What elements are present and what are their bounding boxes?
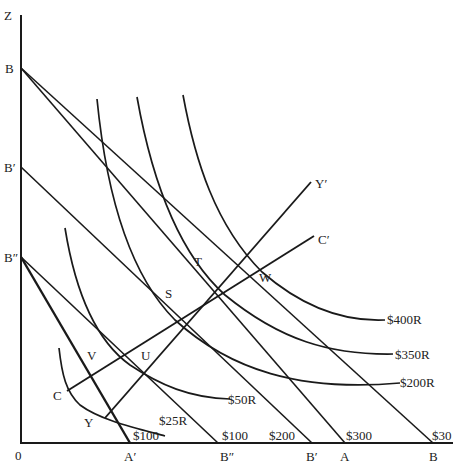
path-label-Y-prime: Y′: [315, 176, 327, 191]
budget-line-Bprime-Bprime: [21, 167, 312, 443]
budget-line-B-B: [21, 68, 433, 443]
path-label-C-prime: C′: [318, 232, 330, 247]
curve-label-50R: $50R: [228, 392, 257, 407]
curve-label-25R: $25R: [159, 413, 188, 428]
point-label-U: U: [141, 348, 151, 363]
point-label-S: S: [165, 286, 172, 301]
axis-label-z: Z: [4, 8, 12, 23]
expansion-path-C: [67, 236, 314, 391]
path-label-C: C: [53, 388, 62, 403]
value-label-A: $300: [346, 428, 372, 443]
economics-diagram: Z 0 B B′ B″ A′ $100 B″ $100 B′ $200 A $3…: [0, 0, 453, 468]
point-label-V: V: [87, 348, 97, 363]
intercept-label-A: A: [340, 449, 350, 464]
origin-label: 0: [15, 448, 22, 463]
indifference-curve-400R: [183, 95, 385, 320]
value-label-A-prime: $100: [133, 428, 159, 443]
intercept-label-A-prime: A′: [124, 449, 136, 464]
curve-label-400R: $400R: [387, 312, 422, 327]
indifference-curve-200R: [97, 99, 400, 385]
curve-label-200R: $200R: [400, 375, 435, 390]
point-label-W: W: [259, 270, 272, 285]
curve-label-350R: $350R: [395, 347, 430, 362]
indifference-curve-350R: [137, 97, 393, 354]
value-label-B-x: $30: [432, 428, 452, 443]
expansion-path-Y: [105, 182, 311, 418]
intercept-label-B-prime-x: B′: [306, 449, 318, 464]
path-label-Y: Y: [84, 415, 94, 430]
intercept-label-B-prime: B′: [4, 160, 16, 175]
intercept-label-B-double-prime-x: B″: [220, 449, 234, 464]
intercept-label-B-x: B: [429, 449, 438, 464]
point-label-T: T: [194, 254, 202, 269]
value-label-B-prime-x: $200: [269, 428, 295, 443]
intercept-label-B-double-prime: B″: [4, 250, 18, 265]
intercept-label-B: B: [5, 61, 14, 76]
budget-line-Bdouble-Bdouble: [21, 257, 218, 443]
value-label-B-double-prime-x: $100: [222, 428, 248, 443]
